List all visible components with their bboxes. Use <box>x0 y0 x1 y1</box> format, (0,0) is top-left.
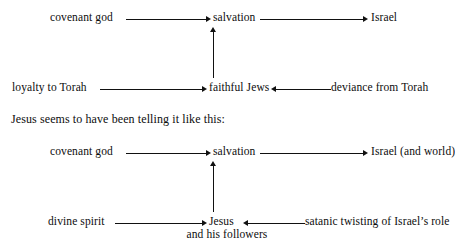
figure-caption: Jesus seems to have been telling it like… <box>11 112 225 126</box>
edge-deviance-to-faithful-jews <box>276 89 331 90</box>
arrowhead-right-faithful-jews <box>202 86 207 92</box>
node-covenant-god-top: covenant god <box>50 11 113 24</box>
edge-satanic-twisting-to-jesus <box>248 223 305 224</box>
node-covenant-god-bottom: covenant god <box>50 145 113 158</box>
node-salvation-bottom: salvation <box>213 145 255 158</box>
node-jesus-sublabel: and his followers <box>187 228 268 241</box>
edge-divine-spirit-to-jesus <box>115 223 204 224</box>
arrowhead-up-salvation-top <box>210 27 216 32</box>
node-satanic-twisting: satanic twisting of Israel’s role <box>305 215 449 228</box>
node-faithful-jews: faithful Jews <box>209 81 269 94</box>
edge-salvation-to-israel-bottom <box>260 153 365 154</box>
arrowhead-up-salvation-bottom <box>210 161 216 166</box>
arrowhead-right-salvation-top <box>206 16 211 22</box>
edge-faithful-jews-to-salvation <box>213 32 214 78</box>
node-jesus: Jesus <box>209 215 234 228</box>
arrowhead-right-israel-bottom <box>363 150 368 156</box>
arrowhead-right-jesus <box>202 220 207 226</box>
node-jesus-label: Jesus <box>209 215 234 227</box>
arrowhead-right-salvation-bottom <box>206 150 211 156</box>
edge-loyalty-to-faithful-jews <box>100 89 204 90</box>
edge-salvation-to-israel-top <box>260 19 365 20</box>
node-israel-and-world: Israel (and world) <box>371 145 455 158</box>
node-salvation-top: salvation <box>213 11 255 24</box>
edge-jesus-to-salvation <box>213 166 214 212</box>
edge-covenant-god-to-salvation-top <box>126 19 208 20</box>
arrowhead-right-israel-top <box>363 16 368 22</box>
node-deviance-from-torah: deviance from Torah <box>331 81 428 94</box>
node-israel-top: Israel <box>371 11 397 24</box>
edge-covenant-god-to-salvation-bottom <box>126 153 208 154</box>
node-loyalty-to-torah: loyalty to Torah <box>12 81 87 94</box>
node-divine-spirit: divine spirit <box>48 215 105 228</box>
